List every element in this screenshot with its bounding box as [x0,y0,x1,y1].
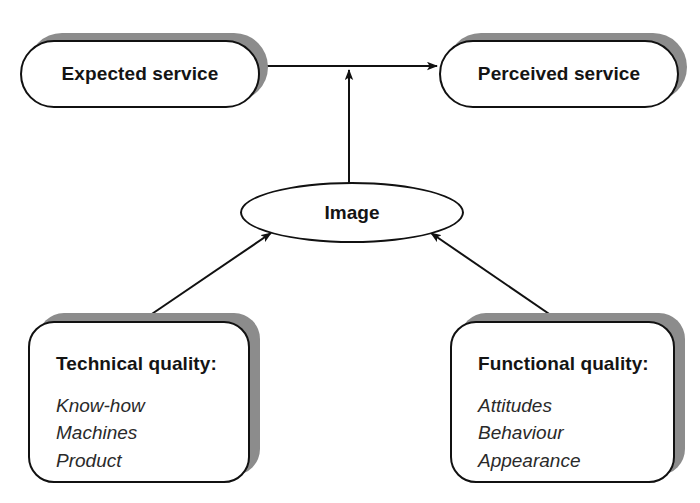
functional-to-image-link [431,233,558,320]
list-item: Product [56,447,248,474]
technical-quality-title: Technical quality: [56,353,248,375]
node-image[interactable]: Image [240,182,464,243]
diagram-canvas: Expected service Perceived service Image… [0,0,700,503]
list-item: Machines [56,419,248,446]
expected-service-label: Expected service [62,63,219,85]
functional-quality-title: Functional quality: [478,353,673,375]
functional-quality-list: Attitudes Behaviour Appearance [478,392,673,474]
list-item: Behaviour [478,419,673,446]
list-item: Appearance [478,447,673,474]
list-item: Attitudes [478,392,673,419]
node-functional-quality[interactable]: Functional quality: Attitudes Behaviour … [450,321,675,483]
technical-to-image-link [143,233,271,320]
node-expected-service[interactable]: Expected service [20,40,260,108]
list-item: Know-how [56,392,248,419]
technical-quality-list: Know-how Machines Product [56,392,248,474]
node-perceived-service[interactable]: Perceived service [439,40,679,108]
image-label: Image [325,202,380,224]
node-technical-quality[interactable]: Technical quality: Know-how Machines Pro… [28,321,250,483]
perceived-service-label: Perceived service [478,63,640,85]
